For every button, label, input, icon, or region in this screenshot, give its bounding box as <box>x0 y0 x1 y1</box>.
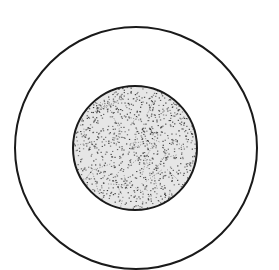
concentric-circle-diagram <box>0 0 279 270</box>
